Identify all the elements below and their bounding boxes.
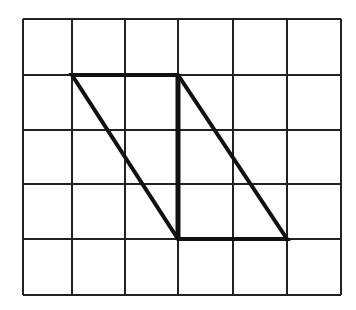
grid-diagram (0, 0, 356, 310)
grid-lines (23, 19, 341, 295)
parallelogram (72, 75, 287, 239)
